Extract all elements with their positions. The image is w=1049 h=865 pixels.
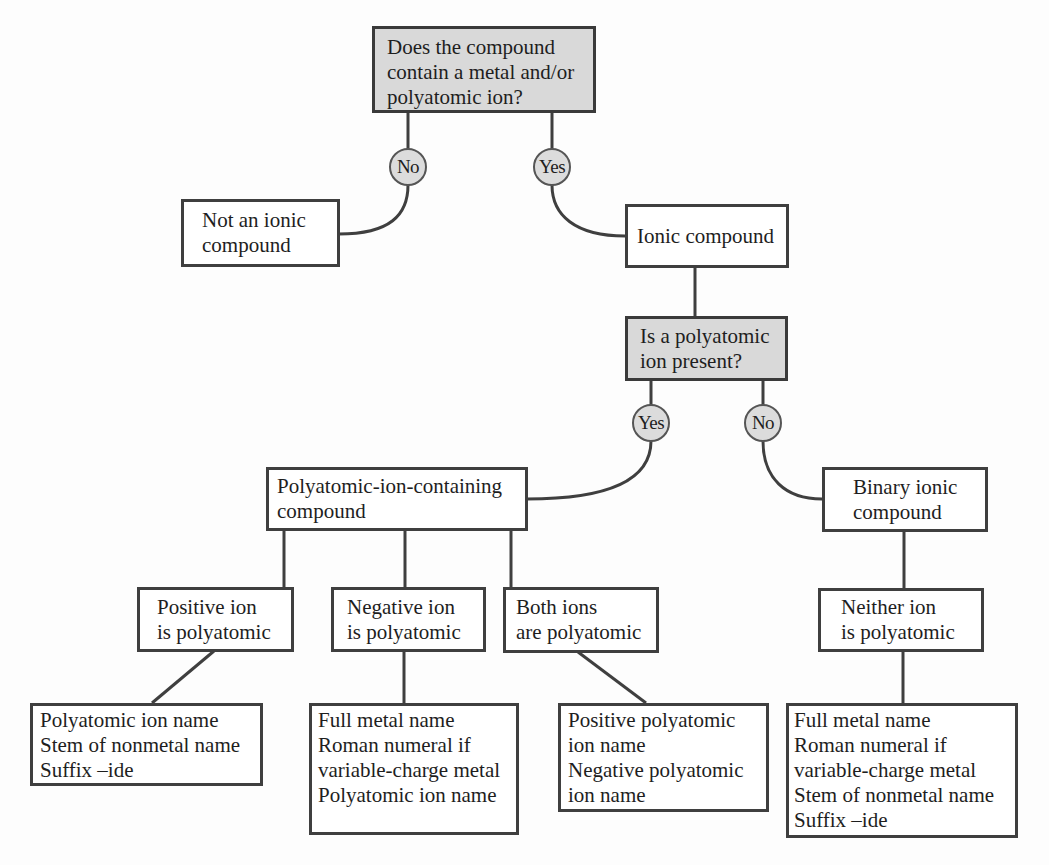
node-polyatomic-ion-containing-compound: Polyatomic-ion-containing compound	[266, 467, 528, 531]
node-text-line: compound	[202, 233, 319, 258]
decision-text-line: Does the compound	[387, 35, 581, 60]
answer-no-badge: No	[744, 404, 782, 442]
rule-line: Polyatomic ion name	[318, 783, 510, 808]
rules-negative-ion-polyatomic: Full metal name Roman numeral if variabl…	[309, 703, 519, 835]
node-text-line: Binary ionic	[853, 475, 957, 500]
node-text-line: Neither ion	[841, 595, 961, 620]
node-binary-ionic-compound: Binary ionic compound	[822, 467, 988, 532]
answer-yes-badge: Yes	[632, 404, 670, 442]
rule-line: Full metal name	[318, 708, 510, 733]
node-text-line: Negative ion	[347, 595, 470, 620]
rule-line: variable-charge metal	[794, 758, 1010, 783]
node-both-ions-polyatomic: Both ions are polyatomic	[503, 587, 659, 653]
rule-line: Roman numeral if	[318, 733, 510, 758]
rule-line: Stem of nonmetal name	[40, 733, 253, 758]
answer-yes-badge: Yes	[533, 148, 571, 186]
rule-line: Negative polyatomic	[568, 758, 759, 783]
rules-neither-ion-polyatomic: Full metal name Roman numeral if variabl…	[786, 703, 1018, 838]
rule-line: Suffix –ide	[40, 758, 253, 783]
node-text-line: compound	[853, 500, 957, 525]
rule-line: Full metal name	[794, 708, 1010, 733]
node-not-ionic-compound: Not an ionic compound	[181, 199, 340, 267]
rule-line: Polyatomic ion name	[40, 708, 253, 733]
answer-no-badge: No	[389, 148, 427, 186]
node-text-line: is polyatomic	[841, 620, 961, 645]
node-neither-ion-polyatomic: Neither ion is polyatomic	[818, 588, 984, 652]
node-text-line: compound	[277, 499, 517, 524]
node-text-line: Ionic compound	[637, 224, 777, 249]
decision-text-line: ion present?	[640, 349, 773, 374]
rule-line: variable-charge metal	[318, 758, 510, 783]
node-negative-ion-polyatomic: Negative ion is polyatomic	[331, 587, 486, 652]
decision-text-line: polyatomic ion?	[387, 85, 581, 110]
node-ionic-compound: Ionic compound	[625, 204, 789, 268]
decision-text-line: contain a metal and/or	[387, 60, 581, 85]
rules-both-ions-polyatomic: Positive polyatomic ion name Negative po…	[558, 703, 769, 812]
node-text-line: are polyatomic	[516, 620, 646, 645]
decision-polyatomic-present: Is a polyatomic ion present?	[625, 316, 788, 381]
rules-positive-ion-polyatomic: Polyatomic ion name Stem of nonmetal nam…	[30, 703, 263, 786]
decision-contains-metal-or-polyatomic: Does the compound contain a metal and/or…	[372, 26, 596, 113]
node-text-line: is polyatomic	[347, 620, 470, 645]
rule-line: ion name	[568, 733, 759, 758]
node-text-line: Both ions	[516, 595, 646, 620]
rule-line: Positive polyatomic	[568, 708, 759, 733]
rule-line: Roman numeral if	[794, 733, 1010, 758]
node-text-line: Not an ionic	[202, 208, 319, 233]
node-text-line: Positive ion	[157, 595, 274, 620]
node-positive-ion-polyatomic: Positive ion is polyatomic	[137, 587, 294, 652]
node-text-line: Polyatomic-ion-containing	[277, 474, 517, 499]
rule-line: Suffix –ide	[794, 808, 1010, 833]
flowchart-canvas: Does the compound contain a metal and/or…	[0, 0, 1049, 865]
decision-text-line: Is a polyatomic	[640, 324, 773, 349]
rule-line: ion name	[568, 783, 759, 808]
rule-line: Stem of nonmetal name	[794, 783, 1010, 808]
node-text-line: is polyatomic	[157, 620, 274, 645]
